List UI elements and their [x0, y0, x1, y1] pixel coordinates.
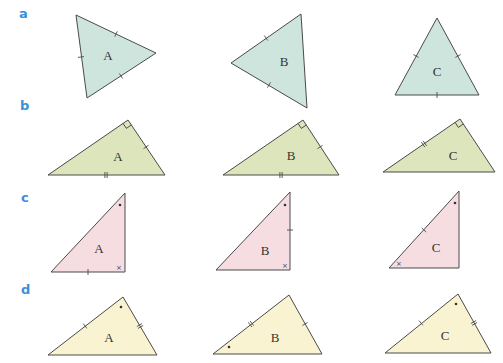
triangle-shape	[51, 193, 125, 272]
triangle-diagram: aABCbABCc×A×B×CdABC	[0, 0, 503, 363]
triangle-c: C	[395, 18, 479, 98]
triangle-label: C	[433, 64, 442, 79]
triangle-b: B	[213, 295, 322, 354]
row-label: a	[19, 6, 28, 21]
angle-cross-marker: ×	[396, 260, 402, 268]
angle-dot-marker	[284, 204, 287, 207]
triangle-label: C	[441, 328, 450, 343]
row-a: aABC	[19, 6, 479, 108]
row-label: c	[21, 190, 29, 205]
triangle-label: C	[449, 148, 458, 163]
triangle-a: A	[48, 297, 157, 355]
angle-cross-marker: ×	[116, 264, 122, 272]
angle-cross-marker: ×	[282, 262, 288, 270]
triangle-label: A	[94, 241, 104, 256]
triangle-shape	[76, 15, 156, 98]
triangle-label: B	[287, 148, 296, 163]
triangle-shape	[213, 295, 322, 354]
triangle-shape	[216, 192, 290, 270]
triangle-label: C	[432, 240, 441, 255]
row-label: b	[20, 98, 29, 113]
triangle-shape	[395, 18, 479, 95]
row-c: c×A×B×C	[21, 190, 459, 275]
triangle-c: C	[385, 294, 491, 353]
angle-dot-marker	[119, 204, 122, 207]
row-label: d	[21, 282, 30, 297]
triangle-a: ×A	[51, 193, 125, 275]
triangle-shape	[48, 297, 157, 355]
triangle-label: B	[280, 54, 289, 69]
row-d: dABC	[21, 282, 491, 355]
angle-dot-marker	[120, 306, 123, 309]
angle-dot-marker	[454, 202, 457, 205]
triangle-shape	[383, 119, 495, 172]
triangle-c: C	[383, 119, 495, 172]
triangle-a: A	[48, 120, 165, 178]
triangle-shape	[231, 14, 307, 108]
triangle-b: ×B	[216, 192, 293, 270]
angle-dot-marker	[455, 303, 458, 306]
triangle-b: B	[223, 120, 339, 178]
angle-dot-marker	[228, 346, 231, 349]
triangle-shape	[48, 120, 165, 175]
row-b: bABC	[20, 98, 495, 178]
triangle-shape	[223, 120, 339, 175]
triangle-c: ×C	[389, 191, 459, 268]
triangle-label: B	[261, 243, 270, 258]
triangle-label: A	[103, 48, 113, 63]
triangle-label: B	[271, 330, 280, 345]
triangle-label: A	[113, 149, 123, 164]
triangle-label: A	[104, 330, 114, 345]
triangle-b: B	[231, 14, 307, 108]
triangle-a: A	[76, 15, 156, 98]
